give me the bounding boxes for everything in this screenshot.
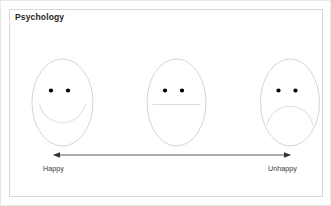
slide-canvas: Psychology Happy U xyxy=(0,0,331,206)
neutral-left-eye-icon xyxy=(163,88,167,92)
happiness-continuum-diagram xyxy=(1,1,331,206)
neutral-right-eye-icon xyxy=(180,88,184,92)
unhappy-left-eye-icon xyxy=(276,88,280,92)
neutral-face-outline xyxy=(147,59,206,146)
happy-face-outline xyxy=(32,59,93,146)
unhappy-face xyxy=(261,59,320,146)
unhappy-face-outline xyxy=(261,59,320,146)
unhappy-right-eye-icon xyxy=(293,88,297,92)
happiness-axis-arrow xyxy=(53,152,291,157)
happy-left-eye-icon xyxy=(49,88,53,92)
arrowhead-left-icon xyxy=(53,152,60,157)
arrowhead-right-icon xyxy=(284,152,291,157)
happy-right-eye-icon xyxy=(66,88,70,92)
axis-label-unhappy: Unhappy xyxy=(268,164,297,173)
neutral-face xyxy=(147,59,206,146)
axis-label-happy: Happy xyxy=(43,164,64,173)
happy-face xyxy=(32,59,93,146)
